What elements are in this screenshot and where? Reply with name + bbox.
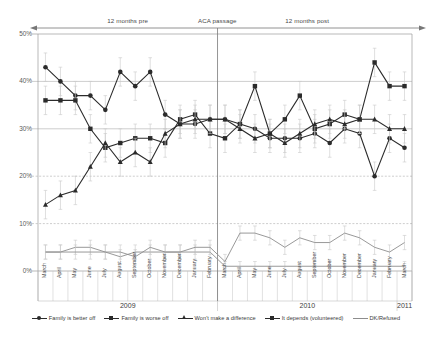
legend-swatch-none-icon <box>353 315 368 322</box>
x-tick-july-16: July <box>281 268 287 278</box>
chart-legend: Family is better offFamily is worse offW… <box>0 311 432 325</box>
legend-item-family-is-worse-off[interactable]: Family is worse off <box>104 315 168 322</box>
x-tick-july-4: July <box>101 268 107 278</box>
y-tick-20pct: 20% <box>10 172 32 179</box>
legend-label: Won't make a difference <box>195 315 256 321</box>
year-label-2011: 2011 <box>397 302 412 309</box>
legend-swatch-square-icon <box>104 315 119 322</box>
x-tick-august-17: August <box>296 261 302 278</box>
legend-item-dk-refused[interactable]: DK/Refused <box>353 315 401 322</box>
legend-label: DK/Refused <box>370 315 401 321</box>
y-tick-40pct: 40% <box>10 77 32 84</box>
legend-item-it-depends-volunteered[interactable]: It depends (volunteered) <box>265 315 344 322</box>
legend-swatch-triangle-icon <box>178 315 193 322</box>
y-tick-0pct: 0% <box>10 267 32 274</box>
x-tick-october-7: October <box>146 259 152 278</box>
legend-label: It depends (volunteered) <box>282 315 344 321</box>
series-won-t-make-a-difference <box>43 105 407 219</box>
x-tick-april-1: April <box>56 267 62 278</box>
x-tick-february-23: February <box>386 256 392 278</box>
x-tick-march-12: March <box>221 263 227 278</box>
x-tick-september-18: September <box>311 252 317 278</box>
legend-item-family-is-better-off[interactable]: Family is better off <box>32 315 96 322</box>
y-tick-30pct: 30% <box>10 125 32 132</box>
x-tick-september-6: September <box>131 252 137 278</box>
x-tick-june-15: June <box>266 266 272 278</box>
x-tick-january-10: January <box>191 259 197 278</box>
x-tick-november-8: November <box>161 253 167 278</box>
x-tick-march-0: March <box>41 263 47 278</box>
legend-swatch-circle-icon <box>32 315 47 322</box>
legend-label: Family is better off <box>49 315 96 321</box>
year-label-2009: 2009 <box>38 302 218 309</box>
line-chart <box>0 0 432 339</box>
x-tick-january-22: January <box>371 259 377 278</box>
y-tick-10pct: 10% <box>10 220 32 227</box>
legend-item-won-t-make-a-difference[interactable]: Won't make a difference <box>178 315 256 322</box>
x-tick-march-24: March <box>401 263 407 278</box>
x-tick-february-11: February <box>206 256 212 278</box>
x-tick-december-21: December <box>356 253 362 278</box>
x-tick-november-20: November <box>341 253 347 278</box>
x-tick-august-5: August <box>116 261 122 278</box>
x-tick-october-19: October <box>326 259 332 278</box>
x-tick-june-3: June <box>86 266 92 278</box>
y-tick-50pct: 50% <box>10 30 32 37</box>
x-tick-may-2: May <box>71 268 77 278</box>
legend-swatch-square-icon <box>265 315 280 322</box>
x-tick-december-9: December <box>176 253 182 278</box>
x-tick-may-14: May <box>251 268 257 278</box>
year-label-2010: 2010 <box>218 302 398 309</box>
chart-page: 12 months pre ACA passage 12 months post… <box>0 0 432 339</box>
x-tick-april-13: April <box>236 267 242 278</box>
period-arrow <box>30 25 426 30</box>
legend-label: Family is worse off <box>121 315 168 321</box>
